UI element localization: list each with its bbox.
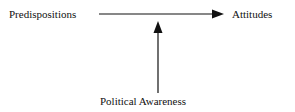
diagram-arrows xyxy=(0,0,295,112)
arrow-political-awareness-moderator xyxy=(154,21,163,93)
arrow-predispositions-to-attitudes xyxy=(99,10,224,19)
